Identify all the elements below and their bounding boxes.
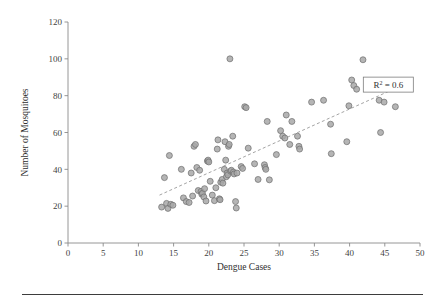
data-point [344, 139, 350, 145]
data-point [289, 118, 295, 124]
data-point [170, 202, 176, 208]
data-point [264, 118, 270, 124]
data-point [209, 192, 215, 198]
data-point [233, 205, 239, 211]
data-point [243, 105, 249, 111]
x-tick-label: 30 [275, 248, 285, 258]
data-point [215, 137, 221, 143]
data-point [202, 186, 208, 192]
data-point [328, 121, 334, 127]
data-point [297, 146, 303, 152]
data-point [161, 175, 167, 181]
axes-group [65, 22, 421, 247]
x-tick-label: 50 [416, 248, 426, 258]
data-point [207, 178, 213, 184]
data-point [197, 167, 203, 173]
y-tick-label: 40 [53, 165, 63, 175]
x-tick-label: 0 [66, 248, 71, 258]
x-tick-label: 35 [310, 248, 320, 258]
axis-labels-group: 05101520253035404550020406080100120Dengu… [20, 17, 425, 272]
data-points-group [159, 56, 399, 212]
data-point [278, 128, 284, 134]
data-point [309, 99, 315, 105]
data-point [287, 141, 293, 147]
data-point [263, 166, 269, 172]
data-point [392, 104, 398, 110]
x-tick-label: 45 [380, 248, 390, 258]
y-tick-label: 80 [53, 91, 63, 101]
data-point [217, 197, 223, 203]
data-point [223, 157, 229, 163]
data-point [186, 199, 192, 205]
data-point [214, 146, 220, 152]
data-point [213, 185, 219, 191]
data-point [178, 166, 184, 172]
data-point [206, 159, 212, 165]
data-point [381, 99, 387, 105]
data-point [240, 165, 246, 171]
data-point [321, 97, 327, 103]
y-tick-label: 100 [49, 54, 63, 64]
data-point [203, 198, 209, 204]
data-point [328, 151, 334, 157]
data-point [273, 152, 279, 158]
data-point [346, 103, 352, 109]
data-point [252, 161, 258, 167]
data-point [227, 56, 233, 62]
y-tick-label: 60 [53, 128, 63, 138]
y-tick-label: 20 [53, 201, 63, 211]
x-tick-label: 5 [101, 248, 106, 258]
data-point [166, 153, 172, 159]
annotation-group: R2 = 0.6 [363, 77, 413, 92]
x-tick-label: 40 [345, 248, 355, 258]
data-point [230, 133, 236, 139]
data-point [283, 112, 289, 118]
data-point [360, 57, 366, 63]
scatter-chart-figure: 05101520253035404550020406080100120Dengu… [0, 0, 443, 300]
data-point [266, 177, 272, 183]
data-point [349, 77, 355, 83]
data-point [245, 145, 251, 151]
x-tick-label: 25 [240, 248, 250, 258]
data-point [295, 133, 301, 139]
r-squared-annotation-text: R2 = 0.6 [373, 80, 403, 90]
data-point [188, 170, 194, 176]
y-tick-label: 120 [49, 17, 63, 27]
data-point [282, 135, 288, 141]
data-point [226, 141, 232, 147]
data-point [192, 141, 198, 147]
data-point [234, 170, 240, 176]
footer-divider [22, 294, 423, 295]
y-axis-title: Number of Mosquitoes [20, 88, 30, 176]
data-point [190, 193, 196, 199]
data-point [378, 130, 384, 136]
y-tick-label: 0 [58, 238, 63, 248]
x-tick-label: 20 [204, 248, 214, 258]
data-point [233, 199, 239, 205]
x-tick-label: 15 [169, 248, 179, 258]
x-tick-label: 10 [134, 248, 144, 258]
data-point [220, 180, 226, 186]
x-axis-title: Dengue Cases [217, 262, 271, 272]
data-point [255, 176, 261, 182]
chart-canvas: 05101520253035404550020406080100120Dengu… [0, 0, 443, 300]
data-point [354, 86, 360, 92]
